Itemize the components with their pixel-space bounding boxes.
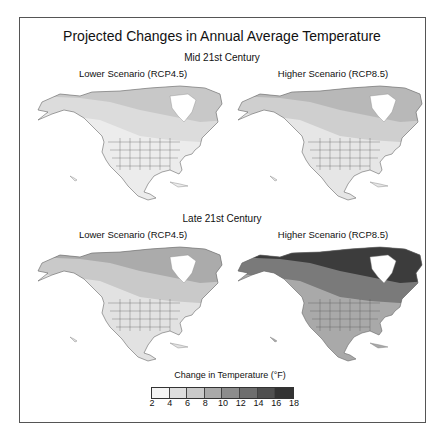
map-late-higher [230,243,430,363]
legend-swatch [152,388,170,398]
legend-swatch [222,388,240,398]
legend-tick: 4 [167,398,172,408]
panel-label-late-lower: Lower Scenario (RCP4.5) [33,229,233,240]
legend-title: Change in Temperature (°F) [140,370,320,380]
panel-label-mid-higher: Higher Scenario (RCP8.5) [233,68,433,79]
legend-tick: 12 [236,398,246,408]
legend-tick: 6 [185,398,190,408]
legend-tick: 16 [271,398,281,408]
legend-tick: 8 [203,398,208,408]
legend-swatch [258,388,276,398]
section-label-mid: Mid 21st Century [0,52,444,63]
legend-ticks: 24681012141618 [151,398,294,410]
map-late-lower [30,243,230,363]
legend-tick: 18 [289,398,299,408]
section-label-late: Late 21st Century [0,213,444,224]
legend-tick: 2 [149,398,154,408]
figure-title: Projected Changes in Annual Average Temp… [0,28,444,44]
legend-tick: 10 [218,398,228,408]
legend-tick: 14 [253,398,263,408]
legend-swatch [240,388,258,398]
panel-label-mid-lower: Lower Scenario (RCP4.5) [33,68,233,79]
panel-label-late-higher: Higher Scenario (RCP8.5) [233,229,433,240]
legend-swatch [170,388,188,398]
map-mid-higher [230,82,430,202]
legend-swatch [205,388,223,398]
legend-swatch [187,388,205,398]
map-mid-lower [30,82,230,202]
legend-swatch [275,388,293,398]
